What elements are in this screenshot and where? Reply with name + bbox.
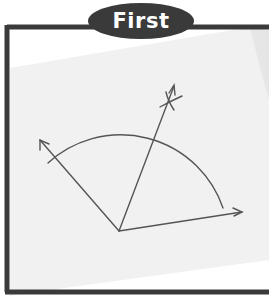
diagram-canvas bbox=[0, 0, 269, 297]
step-label-text: First bbox=[113, 11, 170, 32]
step-label-badge: First bbox=[88, 3, 194, 39]
